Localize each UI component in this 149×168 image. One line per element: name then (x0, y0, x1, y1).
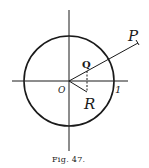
label-r: R (83, 95, 95, 113)
label-q: Q (82, 59, 91, 70)
label-one: 1 (115, 84, 121, 95)
label-o: O (58, 85, 66, 95)
figure-diagram: P Q O R 1 Fig. 47. (0, 0, 149, 168)
figure-caption: Fig. 47. (52, 155, 85, 164)
label-p: P (127, 27, 139, 45)
ray-op (69, 43, 138, 81)
segment-or (69, 81, 87, 92)
